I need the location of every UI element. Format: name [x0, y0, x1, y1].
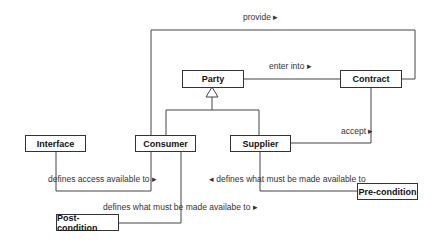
defines-post-label: defines what must be made availabe to ▸ — [103, 202, 258, 212]
class-interface[interactable]: Interface — [25, 135, 86, 152]
class-interface-label: Interface — [37, 139, 75, 149]
provide-label: provide ▸ — [243, 12, 278, 22]
class-postcondition-label: Post-condition — [57, 213, 118, 233]
defines-access-connector — [56, 151, 151, 191]
defines-pre-connector — [260, 151, 357, 191]
defines-pre-label: ◂ defines what must be made available to — [209, 174, 366, 184]
class-postcondition[interactable]: Post-condition — [56, 214, 119, 231]
class-contract[interactable]: Contract — [340, 70, 402, 88]
generalization-triangle-icon — [206, 87, 218, 97]
class-precondition[interactable]: Pre-condition — [357, 183, 418, 200]
accept-label: accept ▸ — [341, 126, 373, 136]
class-precondition-label: Pre-condition — [359, 187, 417, 197]
class-contract-label: Contract — [352, 74, 389, 84]
enter-into-label: enter into ▸ — [269, 61, 312, 71]
class-supplier[interactable]: Supplier — [230, 135, 291, 152]
defines-post-connector — [118, 151, 181, 223]
class-supplier-label: Supplier — [242, 139, 278, 149]
class-consumer[interactable]: Consumer — [135, 135, 196, 152]
class-consumer-label: Consumer — [143, 139, 188, 149]
generalization-bar — [166, 110, 259, 135]
defines-access-label: defines access available to ▸ — [48, 174, 157, 184]
class-party-label: Party — [202, 74, 225, 84]
class-party[interactable]: Party — [182, 70, 244, 88]
